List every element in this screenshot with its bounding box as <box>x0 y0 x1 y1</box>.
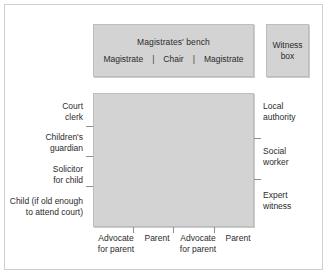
seat-label-local-authority: Local authority <box>263 101 328 123</box>
seat-label-advocate-for-parent-2: Advocate for parent <box>175 233 221 255</box>
bench-seat-chair: Chair <box>163 54 183 64</box>
tick-left-1 <box>86 126 93 127</box>
seat-label-court-clerk: Court clerk <box>15 101 83 123</box>
seat-label-social-worker: Social worker <box>263 146 328 168</box>
magistrates-bench-seats: Magistrate | Chair | Magistrate <box>103 54 243 64</box>
seat-label-childrens-guardian: Children's guardian <box>11 132 83 154</box>
central-table <box>93 93 254 227</box>
tick-left-3 <box>86 186 93 187</box>
magistrates-bench-title: Magistrates' bench <box>137 37 210 47</box>
seat-label-expert-witness: Expert witness <box>263 190 328 212</box>
seat-label-parent-2: Parent <box>218 233 258 244</box>
witness-box-label: Witness box <box>267 40 308 61</box>
magistrates-bench: Magistrates' bench Magistrate | Chair | … <box>93 24 254 77</box>
seat-label-child-attending: Child (if old enough to attend court) <box>0 196 83 218</box>
tick-right-2 <box>254 179 261 180</box>
witness-box: Witness box <box>266 24 309 77</box>
seat-label-parent-1: Parent <box>137 233 177 244</box>
court-layout-diagram: Magistrates' bench Magistrate | Chair | … <box>0 0 328 275</box>
bench-seat-magistrate-right: Magistrate <box>204 54 244 64</box>
diagram-frame: Magistrates' bench Magistrate | Chair | … <box>4 4 323 270</box>
tick-left-2 <box>86 156 93 157</box>
bench-seat-separator-2: | <box>184 54 204 64</box>
bench-seat-separator-1: | <box>143 54 163 64</box>
bench-seat-magistrate-left: Magistrate <box>103 54 143 64</box>
tick-right-1 <box>254 138 261 139</box>
seat-label-solicitor-for-child: Solicitor for child <box>15 164 83 186</box>
seat-label-advocate-for-parent-1: Advocate for parent <box>93 233 139 255</box>
